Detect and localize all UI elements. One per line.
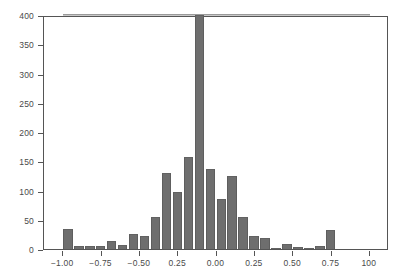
y-axis-tick-label: 50	[0, 216, 34, 226]
x-axis-tick	[101, 251, 102, 256]
histogram-bar	[282, 244, 291, 249]
x-axis-tick	[292, 251, 293, 256]
histogram-bar	[96, 246, 105, 249]
x-axis-tick	[331, 251, 332, 256]
y-axis-tick-label: 200	[0, 128, 34, 138]
y-axis-tick-label: 250	[0, 99, 34, 109]
x-axis: −1.00−0.75−0.500.250.000.250.500.75100	[43, 251, 388, 277]
histogram-bar	[129, 234, 138, 249]
plot-frame	[43, 16, 388, 250]
histogram-bar	[326, 230, 335, 249]
y-axis-tick-label: 0	[0, 245, 34, 255]
histogram-figure: 050100150200250300350400 −1.00−0.75−0.50…	[0, 0, 404, 280]
histogram-bar	[304, 248, 313, 249]
histogram-bar	[260, 238, 269, 249]
x-axis-tick-label: 0.75	[322, 258, 339, 268]
histogram-bar	[118, 245, 127, 249]
histogram-bar	[107, 241, 116, 249]
y-axis-tick-label: 400	[0, 11, 34, 21]
y-axis-tick-label: 350	[0, 40, 34, 50]
x-axis-tick-label: 0.25	[245, 258, 262, 268]
x-axis-tick	[369, 251, 370, 256]
plot-area	[44, 17, 387, 249]
x-axis-tick	[254, 251, 255, 256]
x-axis-tick-label: −0.75	[89, 258, 112, 268]
y-axis-tick-label: 150	[0, 157, 34, 167]
histogram-bar	[184, 157, 193, 249]
x-axis-tick-label: −1.00	[51, 258, 74, 268]
x-axis-tick	[177, 251, 178, 256]
x-axis-tick	[139, 251, 140, 256]
histogram-bar	[151, 217, 160, 249]
histogram-bar	[238, 217, 247, 249]
y-axis-tick-label: 300	[0, 70, 34, 80]
histogram-bar	[217, 199, 226, 249]
x-axis-tick	[62, 251, 63, 256]
x-axis-tick	[216, 251, 217, 256]
x-axis-tick-label: −0.50	[128, 258, 151, 268]
histogram-bar	[85, 246, 94, 249]
histogram-bar	[249, 236, 258, 249]
histogram-bar	[206, 169, 215, 249]
histogram-bar	[63, 229, 72, 249]
histogram-bar	[74, 246, 83, 249]
histogram-bar	[162, 173, 171, 249]
histogram-bar	[195, 15, 204, 249]
reference-line-400	[63, 14, 370, 15]
x-axis-tick-label: 0.50	[283, 258, 300, 268]
histogram-bar	[173, 192, 182, 249]
x-axis-tick-label: 100	[361, 258, 376, 268]
y-axis: 050100150200250300350400	[0, 16, 43, 250]
histogram-bar	[227, 176, 236, 249]
histogram-bar	[140, 236, 149, 249]
x-axis-tick-label: 0.25	[168, 258, 185, 268]
histogram-bar	[293, 247, 302, 249]
x-axis-tick-label: 0.00	[207, 258, 224, 268]
histogram-bar	[271, 248, 280, 249]
histogram-bar	[315, 246, 324, 249]
y-axis-tick-label: 100	[0, 187, 34, 197]
